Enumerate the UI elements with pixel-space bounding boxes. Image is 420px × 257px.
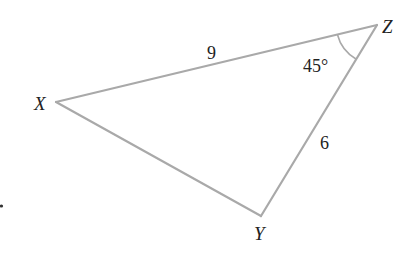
side-label-zy: 6: [320, 133, 329, 153]
angle-arc-z: [337, 35, 356, 60]
vertex-label-y: Y: [254, 223, 267, 244]
angle-label-z: 45°: [303, 56, 328, 76]
vertex-label-z: Z: [382, 16, 393, 37]
stray-mark: [0, 204, 3, 207]
triangle-diagram: X Z Y 9 6 45°: [0, 0, 420, 257]
side-xz: [56, 25, 377, 102]
side-zy: [261, 25, 377, 216]
side-xy: [56, 102, 261, 216]
side-label-xz: 9: [207, 43, 216, 63]
vertex-label-x: X: [33, 93, 47, 114]
